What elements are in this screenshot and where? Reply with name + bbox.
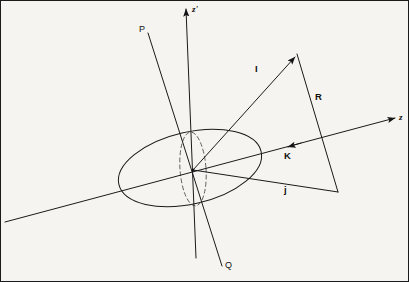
vector-label-j: j bbox=[284, 185, 287, 195]
diagram-canvas bbox=[0, 0, 409, 282]
vector-label-r: R bbox=[315, 92, 322, 102]
vector-i-line bbox=[193, 57, 295, 170]
origin-marker bbox=[192, 169, 195, 172]
z-axis-line bbox=[5, 118, 395, 222]
axis-label-z: z bbox=[399, 113, 403, 122]
diagram-page: z' z P Q I R j K bbox=[0, 0, 409, 282]
vector-label-i: I bbox=[255, 64, 258, 74]
axis-label-z-prime: z' bbox=[192, 5, 198, 14]
vector-k-arrow bbox=[288, 143, 301, 147]
vector-j-line bbox=[193, 170, 338, 192]
vector-r-line bbox=[297, 54, 338, 192]
ray-label-p: P bbox=[139, 25, 145, 34]
orbit-ellipse-path bbox=[111, 117, 269, 220]
ray-label-q: Q bbox=[225, 261, 232, 270]
vector-label-k: K bbox=[284, 151, 291, 161]
